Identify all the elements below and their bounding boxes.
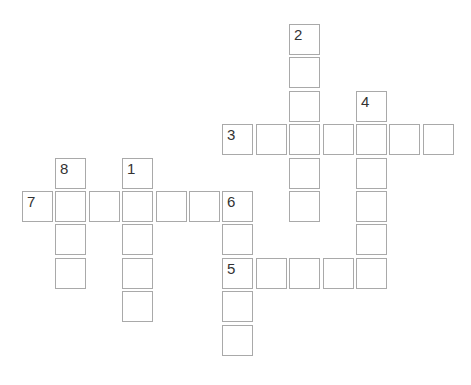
clue-number: 3 [227,127,235,143]
clue-number: 5 [227,261,235,277]
crossword-cell[interactable]: 2 [289,24,320,55]
crossword-cell[interactable] [289,91,320,122]
crossword-cell[interactable] [189,191,220,222]
clue-number: 6 [227,194,235,210]
crossword-cell[interactable] [356,224,387,255]
clue-number: 2 [294,27,302,43]
crossword-cell[interactable] [323,258,354,289]
crossword-cell[interactable]: 4 [356,91,387,122]
crossword-cell[interactable] [256,258,287,289]
crossword-cell[interactable]: 6 [222,191,253,222]
crossword-cell[interactable] [55,191,86,222]
crossword-cell[interactable] [289,191,320,222]
crossword-cell[interactable] [289,158,320,189]
crossword-cell[interactable]: 7 [22,191,53,222]
crossword-cell[interactable] [222,291,253,322]
crossword-cell[interactable] [423,124,454,155]
crossword-cell[interactable] [289,124,320,155]
crossword-cell[interactable] [55,258,86,289]
crossword-cell[interactable]: 3 [222,124,253,155]
crossword-cell[interactable] [356,191,387,222]
clue-number: 8 [60,161,68,177]
crossword-cell[interactable] [122,291,153,322]
crossword-cell[interactable]: 8 [55,158,86,189]
crossword-cell[interactable] [222,224,253,255]
crossword-cell[interactable]: 1 [122,158,153,189]
clue-number: 1 [127,161,135,177]
crossword-cell[interactable] [222,325,253,356]
crossword-cell[interactable] [122,224,153,255]
crossword-cell[interactable] [122,258,153,289]
crossword-cell[interactable] [356,158,387,189]
crossword-cell[interactable] [389,124,420,155]
crossword-cell[interactable] [289,258,320,289]
crossword-cell[interactable] [122,191,153,222]
crossword-cell[interactable] [256,124,287,155]
crossword-cell[interactable] [156,191,187,222]
clue-number: 7 [27,194,35,210]
crossword-cell[interactable] [289,57,320,88]
crossword-cell[interactable] [55,224,86,255]
crossword-cell[interactable] [323,124,354,155]
crossword-grid: 12345678 [0,0,471,385]
crossword-cell[interactable] [356,258,387,289]
crossword-cell[interactable]: 5 [222,258,253,289]
crossword-cell[interactable] [89,191,120,222]
crossword-cell[interactable] [356,124,387,155]
clue-number: 4 [361,94,369,110]
